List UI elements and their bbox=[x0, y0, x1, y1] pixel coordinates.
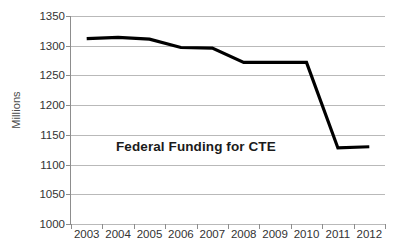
y-tick-mark-1250 bbox=[66, 75, 71, 76]
x-tick-mark-6 bbox=[259, 224, 260, 229]
x-tick-label-2012: 2012 bbox=[357, 228, 383, 240]
x-tick-mark-10 bbox=[385, 224, 386, 229]
gridline-y-1350 bbox=[71, 16, 385, 17]
y-tick-mark-1300 bbox=[66, 46, 71, 47]
x-tick-mark-7 bbox=[291, 224, 292, 229]
y-tick-mark-1100 bbox=[66, 165, 71, 166]
y-tick-label-1100: 1100 bbox=[19, 159, 65, 171]
y-tick-label-1150: 1150 bbox=[19, 129, 65, 141]
x-tick-mark-2 bbox=[134, 224, 135, 229]
gridline-y-1100 bbox=[71, 165, 385, 166]
y-tick-label-1250: 1250 bbox=[19, 69, 65, 81]
gridline-y-1200 bbox=[71, 105, 385, 106]
plot-area bbox=[71, 16, 385, 224]
x-tick-mark-9 bbox=[354, 224, 355, 229]
x-tick-mark-3 bbox=[165, 224, 166, 229]
gridline-y-1300 bbox=[71, 46, 385, 47]
chart-container: Millions 1350130012501200115011001050100… bbox=[0, 0, 401, 252]
y-tick-label-1200: 1200 bbox=[19, 99, 65, 111]
x-tick-label-2006: 2006 bbox=[168, 228, 194, 240]
x-tick-label-2004: 2004 bbox=[105, 228, 131, 240]
x-tick-label-2003: 2003 bbox=[74, 228, 100, 240]
x-tick-label-2010: 2010 bbox=[294, 228, 320, 240]
y-tick-mark-1350 bbox=[66, 16, 71, 17]
y-tick-label-1350: 1350 bbox=[19, 10, 65, 22]
y-tick-mark-1150 bbox=[66, 135, 71, 136]
y-tick-label-1050: 1050 bbox=[19, 188, 65, 200]
x-tick-label-2011: 2011 bbox=[326, 228, 351, 240]
gridline-y-1150 bbox=[71, 135, 385, 136]
x-tick-mark-1 bbox=[102, 224, 103, 229]
x-tick-label-2009: 2009 bbox=[262, 228, 288, 240]
y-tick-mark-1050 bbox=[66, 194, 71, 195]
x-tick-label-2008: 2008 bbox=[231, 228, 257, 240]
x-tick-label-2007: 2007 bbox=[200, 228, 226, 240]
chart-title: Federal Funding for CTE bbox=[116, 139, 276, 154]
x-tick-mark-4 bbox=[197, 224, 198, 229]
gridline-y-1050 bbox=[71, 194, 385, 195]
x-tick-label-2005: 2005 bbox=[137, 228, 163, 240]
y-tick-mark-1200 bbox=[66, 105, 71, 106]
y-tick-label-1000: 1000 bbox=[19, 218, 65, 230]
y-tick-label-1300: 1300 bbox=[19, 40, 65, 52]
gridline-y-1250 bbox=[71, 75, 385, 76]
x-tick-mark-5 bbox=[228, 224, 229, 229]
x-tick-mark-0 bbox=[71, 224, 72, 229]
x-tick-mark-8 bbox=[322, 224, 323, 229]
